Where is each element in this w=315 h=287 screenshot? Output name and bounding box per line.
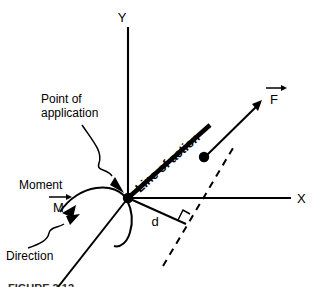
moment-symbol-label: M — [53, 200, 64, 215]
right-angle-icon — [178, 210, 190, 220]
direction-label: Direction — [6, 249, 53, 263]
distance-label: d — [151, 214, 158, 229]
figure-caption: FIGURE 2.12 — [8, 283, 74, 287]
point-of-application-dot — [123, 193, 133, 203]
moment-diagram: Y X Point of application Moment M Direct… — [0, 0, 315, 287]
point-of-application-label-line1: Point of — [41, 92, 82, 106]
line-of-action-label: Line of action — [133, 131, 203, 196]
y-axis-label: Y — [118, 10, 127, 25]
force-point-dot — [199, 152, 209, 162]
direction-leader — [28, 224, 64, 248]
point-of-application-leader — [82, 125, 112, 176]
point-of-application-label-line2: application — [41, 106, 98, 120]
force-vector-bar-arrowhead — [281, 85, 287, 91]
moment-label: Moment — [19, 178, 63, 192]
force-vector-shaft — [207, 105, 258, 155]
x-axis-label: X — [297, 191, 306, 206]
force-symbol-label: F — [270, 92, 278, 107]
figure-root: Y X Point of application Moment M Direct… — [0, 0, 315, 287]
